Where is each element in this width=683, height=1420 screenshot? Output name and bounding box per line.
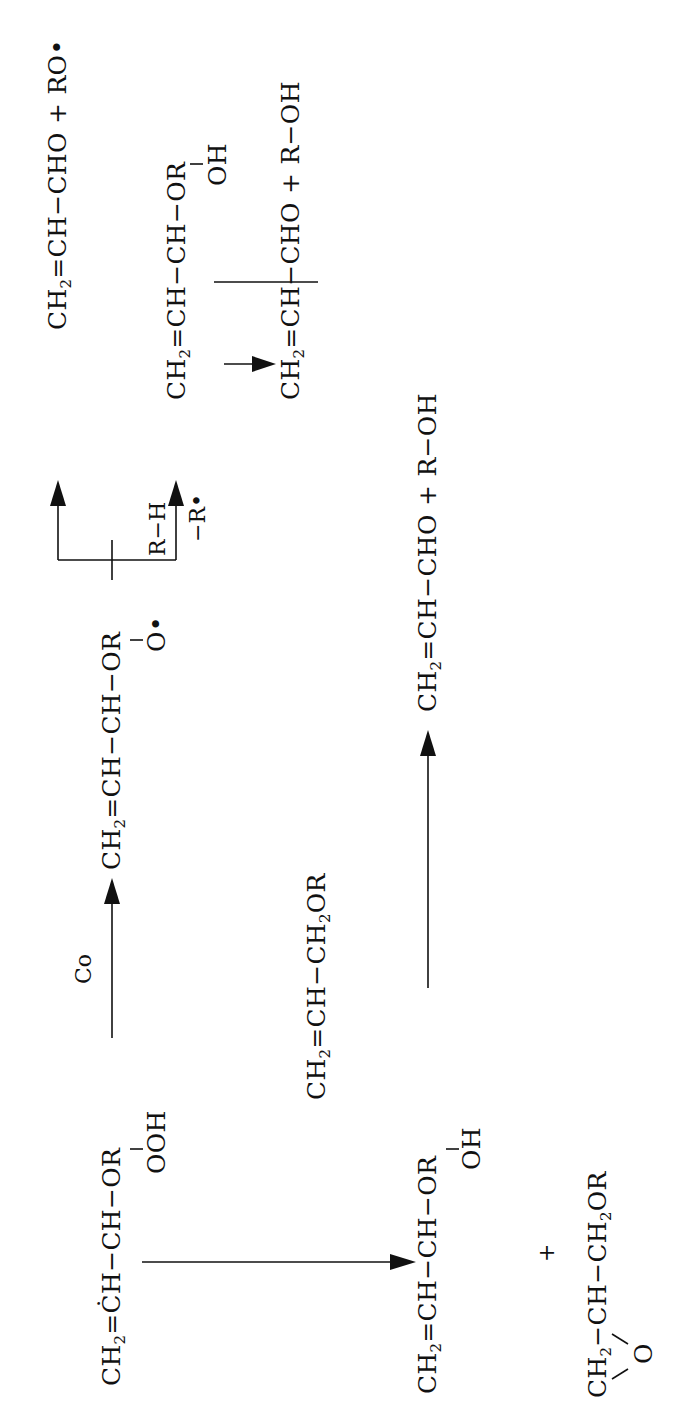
reaction-scheme: CH2=ĊH−CH−OR OOH Co CH2=CH−CH−OR O• R−H … bbox=[0, 0, 683, 1420]
arrow-branch-hydroxy-to-aldehyde bbox=[224, 356, 276, 372]
reaction-arrows-overlay bbox=[0, 0, 683, 1420]
